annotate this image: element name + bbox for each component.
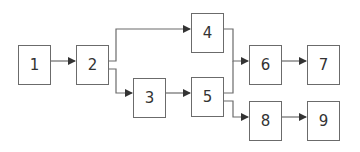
node-label: 7	[319, 56, 329, 74]
edge-5-6	[223, 61, 233, 93]
edge-2-3	[108, 69, 132, 93]
node-label: 3	[145, 89, 155, 107]
node-2: 2	[76, 45, 109, 85]
edge-2-4	[108, 29, 190, 61]
node-6: 6	[249, 45, 282, 85]
node-label: 1	[30, 56, 40, 74]
node-7: 7	[307, 45, 340, 85]
connector-layer	[0, 0, 360, 152]
node-8: 8	[249, 101, 282, 141]
node-1: 1	[18, 45, 51, 85]
node-label: 5	[203, 88, 213, 106]
node-label: 2	[88, 56, 98, 74]
node-5: 5	[191, 77, 224, 117]
node-9: 9	[307, 101, 340, 141]
node-3: 3	[133, 78, 166, 118]
node-label: 6	[261, 56, 271, 74]
edge-4-6	[223, 29, 248, 61]
edge-5-8	[223, 101, 248, 117]
node-label: 9	[319, 112, 329, 130]
node-label: 8	[261, 112, 271, 130]
node-label: 4	[203, 24, 213, 42]
node-4: 4	[191, 13, 224, 53]
